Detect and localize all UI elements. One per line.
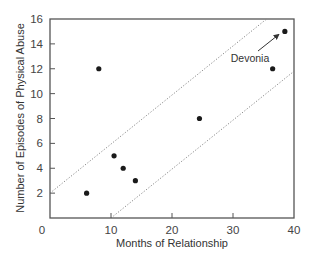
x-tick-label: 10 xyxy=(105,224,118,236)
data-point xyxy=(270,66,275,71)
y-tick-label: 10 xyxy=(30,88,43,100)
reference-lines xyxy=(50,19,294,218)
y-tick-label: 2 xyxy=(37,187,43,199)
data-point xyxy=(197,116,202,121)
y-tick-label: 12 xyxy=(30,63,43,75)
plot-border xyxy=(50,19,294,218)
y-tick-label: 4 xyxy=(37,162,44,174)
x-tick-label: 30 xyxy=(227,224,240,236)
x-tick-label: 20 xyxy=(166,224,179,236)
annotation-arrow xyxy=(258,34,279,51)
annotations: Devonia xyxy=(231,34,279,64)
upper-dotted-band xyxy=(50,19,267,193)
scatter-chart: 010203040 246810121416 Devonia Months of… xyxy=(0,0,318,265)
x-axis-title: Months of Relationship xyxy=(116,237,228,249)
data-point xyxy=(111,153,116,158)
lower-dotted-band xyxy=(111,71,294,218)
y-tick-label: 8 xyxy=(37,113,43,125)
data-point xyxy=(121,166,126,171)
data-point xyxy=(133,178,138,183)
annotation-label-devonia: Devonia xyxy=(231,52,270,64)
data-point xyxy=(84,191,89,196)
x-tick-label: 40 xyxy=(288,224,301,236)
plot-frame xyxy=(50,19,294,218)
data-point xyxy=(96,66,101,71)
y-axis-ticks: 246810121416 xyxy=(30,13,55,199)
x-tick-label: 0 xyxy=(39,224,45,236)
y-tick-label: 6 xyxy=(37,137,43,149)
y-axis-title: Number of Episodes of Physical Abuse xyxy=(14,23,26,213)
y-tick-label: 16 xyxy=(30,13,43,25)
y-tick-label: 14 xyxy=(30,38,43,50)
x-axis-ticks: 010203040 xyxy=(39,213,301,236)
data-point xyxy=(282,29,287,34)
